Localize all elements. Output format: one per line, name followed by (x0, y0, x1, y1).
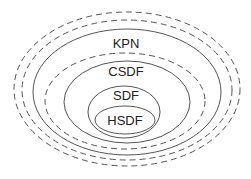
hsdf-label: HSDF (107, 113, 142, 128)
nested-model-diagram: KPN CSDF SDF HSDF (0, 0, 251, 179)
sdf-label: SDF (113, 88, 139, 103)
csdf-label: CSDF (108, 64, 143, 79)
kpn-label: KPN (113, 36, 140, 51)
